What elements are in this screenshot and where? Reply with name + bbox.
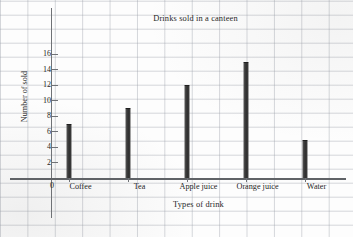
y-tick-label: 14 xyxy=(43,65,51,75)
bar xyxy=(125,108,130,178)
x-category-label: Orange juice xyxy=(228,182,287,191)
bar xyxy=(243,62,248,179)
y-tick-label: 16 xyxy=(43,49,51,59)
bar-slot xyxy=(169,8,228,178)
bar-slot xyxy=(228,8,287,178)
x-category-label: Water xyxy=(287,182,346,191)
bar xyxy=(66,124,71,178)
x-axis-title: Types of drink xyxy=(51,200,346,209)
y-tick-label: 12 xyxy=(43,80,51,90)
y-tick-label: 10 xyxy=(43,96,51,106)
x-category-label: Apple juice xyxy=(169,182,228,191)
bar-slot xyxy=(51,8,110,178)
bar-chart-figure: Drinks sold in a canteen Number of sold … xyxy=(0,0,353,237)
bar-slot xyxy=(110,8,169,178)
bar-slot xyxy=(287,8,346,178)
x-category-label: Tea xyxy=(110,182,169,191)
bar xyxy=(184,85,189,178)
x-category-label: Coffee xyxy=(51,182,110,191)
x-axis-line xyxy=(10,178,346,180)
y-axis-title: Number of sold xyxy=(20,49,29,145)
plot-area xyxy=(51,8,346,178)
bar xyxy=(302,140,307,179)
